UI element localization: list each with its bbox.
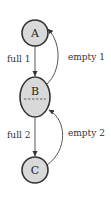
diagram-canvas: full 1 empty 1 full 2 empty 2 A B C: [0, 0, 111, 198]
edge-b-to-c: full 2: [7, 118, 35, 156]
node-label: A: [30, 27, 40, 40]
edge-label-empty-2: empty 2: [68, 128, 105, 138]
node-a: A: [22, 20, 48, 46]
edge-curve: [47, 110, 63, 165]
edge-a-to-b: full 1: [7, 46, 35, 76]
edge-curve: [47, 29, 58, 84]
edge-b-to-a: empty 1: [47, 29, 105, 84]
node-b: B: [20, 77, 50, 117]
node-label: B: [31, 85, 39, 98]
edge-label-empty-1: empty 1: [68, 52, 105, 62]
edge-label-full-1: full 1: [7, 54, 30, 64]
edge-c-to-b: empty 2: [47, 110, 105, 165]
edge-label-full-2: full 2: [7, 130, 30, 140]
node-label: C: [31, 164, 39, 177]
node-c: C: [22, 157, 48, 183]
